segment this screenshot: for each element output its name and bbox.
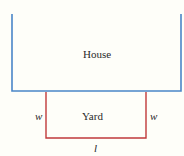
yard-length-label: l [94,143,97,154]
house-label: House [83,49,111,60]
yard-label: Yard [82,111,103,122]
yard-width-right-label: w [150,111,157,122]
yard-width-left-label: w [35,111,42,122]
diagram-canvas [0,0,184,156]
